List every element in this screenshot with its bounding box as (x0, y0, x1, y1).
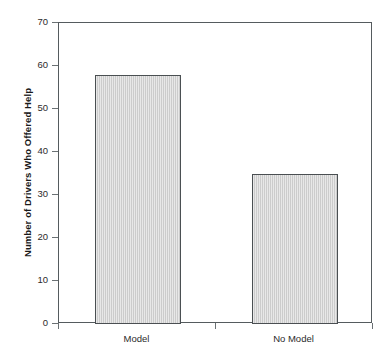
y-tick-label: 30 (22, 189, 48, 199)
x-tick-label: Model (77, 333, 197, 344)
y-tick-label: 60 (22, 60, 48, 70)
y-tick-label: 0 (22, 318, 48, 328)
x-tick-mark (58, 323, 59, 329)
y-tick-label: 20 (22, 232, 48, 242)
x-tick-mark (215, 323, 216, 329)
x-tick-mark (372, 323, 373, 329)
bar-chart-figure: Number of Drivers Who Offered Help 01020… (0, 0, 390, 361)
x-tick-label: No Model (234, 333, 354, 344)
y-tick-label: 50 (22, 103, 48, 113)
plot-area (58, 22, 372, 323)
y-tick-label: 70 (22, 17, 48, 27)
y-tick-label: 40 (22, 146, 48, 156)
bar (95, 75, 181, 324)
bar (252, 174, 338, 325)
y-tick-label: 10 (22, 275, 48, 285)
